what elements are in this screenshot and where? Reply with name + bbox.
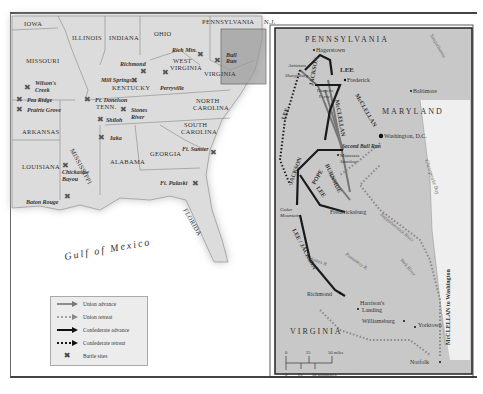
svg-text:Shiloh: Shiloh	[106, 117, 123, 123]
svg-text:Pea Ridge: Pea Ridge	[27, 97, 52, 103]
svg-text:McCLELLAN to Washington: McCLELLAN to Washington	[445, 268, 451, 345]
svg-text:Harrison's: Harrison's	[360, 300, 385, 306]
legend-item-union-retreat: Union retreat	[51, 310, 147, 323]
svg-text:LEE: LEE	[340, 66, 354, 74]
svg-text:✖: ✖	[62, 161, 69, 170]
svg-text:Ft. Sumter: Ft. Sumter	[182, 146, 209, 152]
svg-text:Norfolk: Norfolk	[410, 359, 429, 365]
svg-text:VIRGINIA: VIRGINIA	[170, 64, 202, 71]
legend-item-battle-sites: ✖ Battle sites	[51, 349, 147, 362]
svg-text:TENN.: TENN.	[96, 103, 117, 110]
svg-text:Creek: Creek	[35, 87, 50, 93]
svg-text:ILLINOIS: ILLINOIS	[72, 34, 102, 41]
svg-text:INDIANA: INDIANA	[109, 34, 139, 41]
svg-text:✖: ✖	[64, 192, 71, 201]
svg-text:✖: ✖	[16, 105, 23, 114]
svg-text:Mountain: Mountain	[279, 213, 300, 218]
svg-text:Williamsburg: Williamsburg	[362, 318, 395, 324]
svg-text:✖: ✖	[16, 95, 23, 104]
svg-text:Run: Run	[225, 58, 237, 64]
svg-text:50 miles: 50 miles	[328, 350, 344, 355]
svg-text:Frederick: Frederick	[347, 77, 370, 83]
svg-text:Antietam: Antietam	[287, 63, 306, 68]
svg-text:50 kilometers: 50 kilometers	[312, 372, 337, 377]
svg-text:GEORGIA: GEORGIA	[150, 150, 181, 157]
svg-text:Fredericksburg: Fredericksburg	[330, 209, 366, 215]
svg-text:Sharpsburg: Sharpsburg	[285, 73, 309, 78]
svg-text:ALABAMA: ALABAMA	[110, 158, 145, 165]
svg-text:Rich Mtn.: Rich Mtn.	[171, 47, 198, 53]
svg-text:✖: ✖	[197, 50, 204, 59]
svg-text:✖: ✖	[24, 83, 31, 92]
svg-text:VIRGINIA: VIRGINIA	[290, 327, 342, 336]
svg-text:CAROLINA: CAROLINA	[181, 128, 217, 135]
svg-text:MARYLAND: MARYLAND	[382, 107, 444, 116]
svg-text:IOWA: IOWA	[24, 20, 42, 27]
svg-text:ARKANSAS: ARKANSAS	[22, 128, 60, 135]
svg-text:✖: ✖	[210, 148, 217, 157]
svg-text:✖: ✖	[98, 133, 105, 142]
confederate-advance-arrow-icon	[55, 326, 79, 334]
svg-text:Richmond: Richmond	[307, 291, 332, 297]
svg-text:KENTUCKY: KENTUCKY	[112, 84, 150, 91]
svg-text:Harpers: Harpers	[317, 88, 333, 93]
legend-item-union-advance: Union advance	[51, 297, 147, 310]
confederate-retreat-arrow-icon	[55, 339, 79, 347]
svg-text:Manassas: Manassas	[340, 153, 359, 158]
svg-text:Iuka: Iuka	[109, 135, 122, 141]
svg-text:MISSOURI: MISSOURI	[26, 57, 59, 64]
union-retreat-arrow-icon	[55, 313, 79, 321]
legend: Union advance Union retreat Confederate …	[50, 296, 148, 366]
svg-text:✖: ✖	[140, 67, 147, 76]
svg-text:Ft. Donelson: Ft. Donelson	[95, 97, 128, 103]
legend-item-confederate-retreat: Confederate retreat	[51, 336, 147, 349]
svg-text:Ferry: Ferry	[319, 94, 330, 99]
gulf-of-mexico-label: Gulf of Mexico	[63, 236, 152, 262]
svg-text:River: River	[130, 114, 145, 120]
svg-text:LOUISIANA: LOUISIANA	[22, 163, 60, 170]
svg-text:✖: ✖	[162, 68, 169, 77]
svg-text:Ft. Pulaski: Ft. Pulaski	[160, 180, 188, 186]
svg-text:NORTH: NORTH	[196, 97, 220, 104]
svg-text:Bayou: Bayou	[61, 176, 79, 182]
svg-text:✖: ✖	[120, 105, 127, 114]
svg-text:WEST: WEST	[173, 57, 192, 64]
svg-text:✖: ✖	[214, 56, 221, 65]
svg-text:PENNSYLVANIA: PENNSYLVANIA	[202, 18, 254, 25]
svg-text:✖: ✖	[192, 179, 199, 188]
battle-site-icon: ✖	[55, 352, 79, 360]
svg-text:Baltimore: Baltimore	[413, 88, 437, 94]
svg-text:SOUTH: SOUTH	[184, 121, 207, 128]
svg-text:25: 25	[306, 350, 311, 355]
svg-text:✖: ✖	[84, 95, 91, 104]
svg-text:Cedar: Cedar	[280, 207, 293, 212]
svg-text:Washington, D.C.: Washington, D.C.	[384, 133, 427, 139]
union-advance-arrow-icon	[55, 300, 79, 308]
svg-text:CAROLINA: CAROLINA	[193, 104, 229, 111]
svg-text:Perryville: Perryville	[160, 85, 184, 91]
svg-text:25: 25	[298, 372, 303, 377]
svg-text:Second Bull Run: Second Bull Run	[342, 143, 381, 149]
svg-text:Junction: Junction	[340, 159, 357, 164]
svg-text:✖: ✖	[97, 115, 104, 124]
svg-text:OHIO: OHIO	[154, 30, 171, 37]
svg-text:Landing: Landing	[362, 307, 382, 313]
svg-text:Stones: Stones	[131, 107, 148, 113]
svg-text:Mill Springs: Mill Springs	[100, 77, 133, 83]
legend-item-confederate-advance: Confederate advance	[51, 323, 147, 336]
svg-text:Wilson's: Wilson's	[35, 80, 57, 86]
svg-text:PENNSYLVANIA: PENNSYLVANIA	[305, 35, 389, 44]
svg-text:Yorktown: Yorktown	[418, 322, 442, 328]
svg-text:N.J.: N.J.	[264, 18, 276, 25]
svg-text:Prairie Grove: Prairie Grove	[27, 107, 61, 113]
svg-text:✖: ✖	[131, 76, 138, 85]
svg-text:Hagerstown: Hagerstown	[316, 47, 345, 53]
svg-text:Baton Rouge: Baton Rouge	[25, 199, 59, 205]
svg-text:VIRGINIA: VIRGINIA	[204, 70, 236, 77]
